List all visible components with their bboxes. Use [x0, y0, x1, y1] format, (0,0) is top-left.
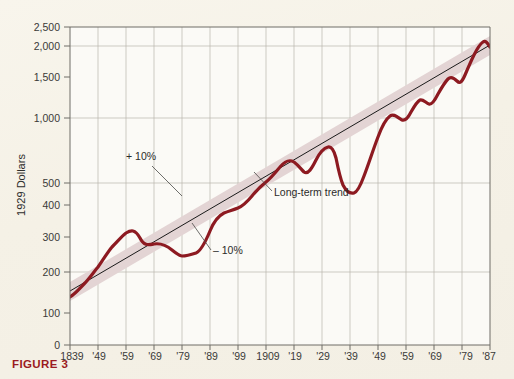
x-tick-label-1949: '49	[372, 350, 386, 362]
x-tick-label-1929: '29	[316, 350, 330, 362]
x-tick-label-1939: '39	[344, 350, 358, 362]
plus-ten-percent-label: + 10%	[126, 150, 156, 162]
x-tick-label-1899: '99	[232, 350, 246, 362]
x-tick-label-1909: 1909	[256, 350, 280, 362]
x-tick-label-1889: '89	[204, 350, 218, 362]
x-tick-label-1879: '79	[176, 350, 190, 362]
minus-ten-percent-label: – 10%	[213, 244, 243, 256]
chart-plot: 2,500 2,000 1,500 1,000 500 400 300 200 …	[0, 0, 514, 379]
y-tick-label-200: 200	[42, 266, 60, 278]
x-tick-label-1859: '59	[120, 350, 134, 362]
y-tick-marks	[64, 27, 70, 345]
y-axis-title: 1929 Dollars	[15, 154, 27, 216]
y-tick-label-300: 300	[42, 231, 60, 243]
x-tick-label-1869: '69	[148, 350, 162, 362]
x-tick-label-1849: '49	[92, 350, 106, 362]
y-tick-label-2500: 2,500	[34, 21, 60, 33]
y-tick-label-500: 500	[42, 177, 60, 189]
x-tick-label-1979: '79	[459, 350, 473, 362]
x-tick-labels: 1839 '49 '59 '69 '79 '89 '99 1909 '19 '2…	[60, 350, 496, 362]
x-tick-label-1919: '19	[288, 350, 302, 362]
x-tick-label-1969: '69	[428, 350, 442, 362]
y-tick-label-0: 0	[54, 339, 60, 351]
y-tick-label-1000: 1,000	[34, 112, 60, 124]
y-tick-label-100: 100	[42, 307, 60, 319]
x-tick-label-1987: '87	[482, 350, 496, 362]
x-tick-label-1959: '59	[400, 350, 414, 362]
figure-container: 2,500 2,000 1,500 1,000 500 400 300 200 …	[0, 0, 514, 379]
y-tick-label-2000: 2,000	[34, 40, 60, 52]
figure-caption: FIGURE 3	[12, 358, 68, 370]
y-tick-label-1500: 1,500	[34, 71, 60, 83]
long-term-trend-label: Long-term trend	[274, 186, 349, 198]
y-tick-labels: 2,500 2,000 1,500 1,000 500 400 300 200 …	[34, 21, 60, 351]
y-tick-label-400: 400	[42, 199, 60, 211]
